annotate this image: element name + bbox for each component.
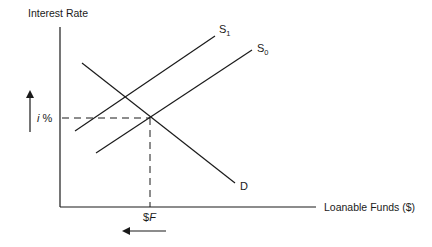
s0-label: S0: [257, 42, 269, 57]
y-axis-label: Interest Rate: [28, 7, 88, 19]
loanable-funds-left-arrow-icon: [122, 227, 166, 235]
supply-curve-s1: [75, 36, 215, 131]
s1-label: S1: [219, 23, 231, 38]
d-label: D: [240, 180, 248, 192]
demand-curve-d: [82, 63, 235, 183]
loanable-funds-diagram: Interest Rate Loanable Funds ($) S1 S0 D…: [0, 0, 432, 247]
interest-rate-up-arrow-icon: [26, 90, 34, 132]
x-axis-label: Loanable Funds ($): [324, 201, 415, 213]
interest-rate-label: i %: [37, 112, 53, 124]
loanable-funds-quantity-label: $F: [143, 211, 157, 223]
